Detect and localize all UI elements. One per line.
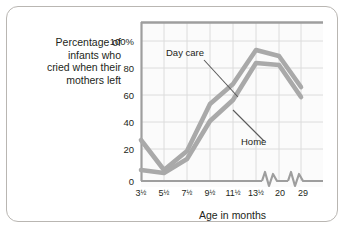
- chart-plot-area: 100% 80 60 40 20 0 Day care: [0, 0, 350, 233]
- annotation-home: Home: [241, 136, 266, 147]
- x-tick-label-7: 29: [288, 188, 318, 198]
- annotation-day-care: Day care: [166, 47, 204, 58]
- x-axis-label: Age in months: [140, 209, 325, 221]
- chart-svg: [0, 0, 350, 233]
